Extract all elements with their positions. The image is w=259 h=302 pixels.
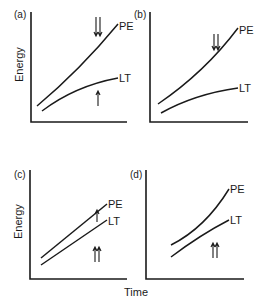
lt-label-a: LT bbox=[119, 72, 131, 84]
panel-label-b: (b) bbox=[134, 9, 146, 20]
double-up-arrow-icon bbox=[211, 243, 219, 258]
lt-curve-c bbox=[41, 220, 107, 265]
up-arrow-icon bbox=[95, 210, 99, 222]
pe-label-c: PE bbox=[108, 198, 123, 210]
y-axis-label-top: Energy bbox=[13, 47, 25, 82]
double-down-arrow-icon bbox=[94, 17, 102, 36]
lt-label-b: LT bbox=[239, 82, 251, 94]
pe-curve-a bbox=[37, 24, 118, 106]
pe-label-b: PE bbox=[239, 24, 254, 36]
double-down-arrow-icon bbox=[212, 34, 220, 50]
panel-a bbox=[31, 12, 127, 122]
panel-label-d: (d) bbox=[130, 169, 142, 180]
axes-b bbox=[150, 12, 248, 122]
double-up-arrow-icon bbox=[93, 247, 101, 262]
pe-curve-b bbox=[158, 28, 238, 104]
y-axis-label-bottom: Energy bbox=[12, 204, 24, 239]
pe-label-d: PE bbox=[230, 183, 245, 195]
panel-b bbox=[150, 12, 248, 122]
up-arrow-icon bbox=[96, 91, 100, 106]
lt-label-c: LT bbox=[108, 215, 120, 227]
lt-curve-a bbox=[42, 78, 118, 111]
figure: (a) (b) (c) (d) PE LT PE LT PE LT PE LT … bbox=[0, 0, 259, 302]
panel-label-a: (a) bbox=[14, 9, 26, 20]
x-axis-label: Time bbox=[124, 286, 148, 298]
lt-curve-b bbox=[161, 88, 238, 113]
panel-label-c: (c) bbox=[14, 169, 26, 180]
pe-label-a: PE bbox=[119, 20, 134, 32]
lt-label-d: LT bbox=[230, 214, 242, 226]
